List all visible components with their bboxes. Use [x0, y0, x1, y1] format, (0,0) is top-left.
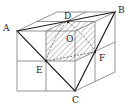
cube-drawing	[0, 0, 126, 110]
label-c: C	[72, 96, 79, 105]
label-f: F	[99, 54, 105, 63]
label-b: B	[118, 6, 125, 15]
cube-diagram: A B C D E F O	[0, 0, 126, 110]
label-e: E	[36, 66, 43, 75]
label-o: O	[66, 35, 73, 44]
label-d: D	[64, 12, 71, 21]
label-a: A	[3, 24, 10, 33]
